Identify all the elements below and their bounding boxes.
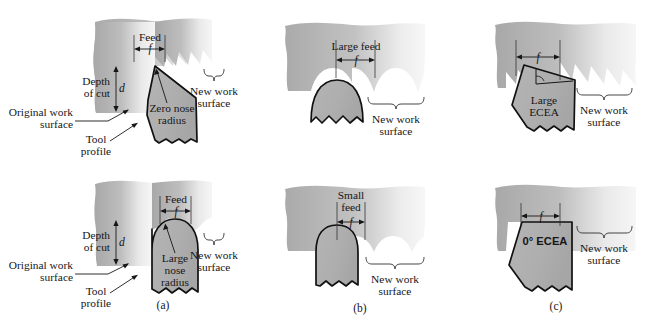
new-surface-line2: surface bbox=[379, 285, 412, 297]
ecea-callout-line1: 0° ECEA bbox=[523, 235, 568, 247]
nose-callout-line2: nose bbox=[165, 264, 186, 276]
new-surface-line2: surface bbox=[380, 125, 413, 137]
tool-profile-line2: profile bbox=[81, 145, 111, 157]
ecea-callout-line1: Large bbox=[531, 94, 557, 106]
depth-label-line2: of cut bbox=[84, 87, 111, 99]
nose-callout-line1: Large bbox=[162, 252, 188, 264]
depth-label-line1: Depth bbox=[82, 75, 110, 87]
new-surface-line1: New work bbox=[190, 249, 238, 261]
depth-symbol: d bbox=[119, 236, 125, 249]
new-surface-line1: New work bbox=[190, 85, 238, 97]
nose-callout-line2: radius bbox=[158, 114, 186, 126]
panel-top-middle: Large feed f New work surface bbox=[285, 23, 425, 137]
new-surface-line2: surface bbox=[588, 116, 621, 128]
original-surface-line2: surface bbox=[40, 271, 73, 283]
new-surface-brace bbox=[204, 69, 224, 81]
caption-a: (a) bbox=[157, 299, 170, 312]
original-surface-line1: Original work bbox=[9, 106, 74, 118]
caption-c: (c) bbox=[550, 300, 563, 313]
new-surface-brace bbox=[368, 97, 424, 109]
new-surface-line2: surface bbox=[588, 254, 621, 266]
original-surface-line2: surface bbox=[40, 118, 73, 130]
workpiece-left-shoulder bbox=[94, 181, 152, 266]
ecea-callout-line2: ECEA bbox=[529, 106, 560, 118]
panel-top-left: Feed f Depth of cut d Original work surf… bbox=[9, 19, 238, 157]
figure-canvas: Feed f Depth of cut d Original work surf… bbox=[0, 0, 660, 330]
new-surface-brace bbox=[204, 233, 224, 245]
feed-label-line2: feed bbox=[341, 201, 361, 213]
feed-label: Feed bbox=[165, 193, 187, 205]
panel-bottom-right: f 0° ECEA New work surface (c) bbox=[495, 185, 636, 313]
depth-label-line1: Depth bbox=[82, 229, 110, 241]
tool-profile-line2: profile bbox=[81, 297, 111, 309]
nose-callout-line3: radius bbox=[161, 276, 189, 288]
nose-callout-line1: Zero nose bbox=[149, 102, 194, 114]
panel-top-right: f Large ECEA New work surface bbox=[495, 22, 636, 131]
panel-bottom-middle: Small feed f New work surface (b) bbox=[285, 186, 425, 315]
new-surface-line2: surface bbox=[198, 261, 231, 273]
new-surface-line2: surface bbox=[198, 97, 231, 109]
new-surface-line1: New work bbox=[580, 242, 628, 254]
tool-profile-line1: Tool bbox=[86, 133, 107, 145]
panel-bottom-left: Feed f Depth of cut d Original work surf… bbox=[9, 180, 238, 312]
machining-surface-finish-figure: Feed f Depth of cut d Original work surf… bbox=[0, 0, 660, 330]
tool-profile-zero-ecea bbox=[509, 222, 572, 291]
new-surface-line1: New work bbox=[372, 113, 420, 125]
feed-label-line1: Small bbox=[338, 189, 365, 201]
feed-label: Large feed bbox=[332, 40, 381, 52]
new-surface-line1: New work bbox=[580, 104, 628, 116]
tool-profile-line1: Tool bbox=[86, 285, 107, 297]
tool-profile-leader bbox=[110, 124, 136, 141]
new-surface-line1: New work bbox=[371, 273, 419, 285]
caption-b: (b) bbox=[353, 302, 367, 315]
original-surface-line1: Original work bbox=[9, 259, 74, 271]
new-surface-brace bbox=[366, 257, 424, 269]
tool-profile-leader bbox=[110, 276, 136, 293]
depth-label-line2: of cut bbox=[84, 241, 111, 253]
depth-symbol: d bbox=[119, 82, 125, 95]
